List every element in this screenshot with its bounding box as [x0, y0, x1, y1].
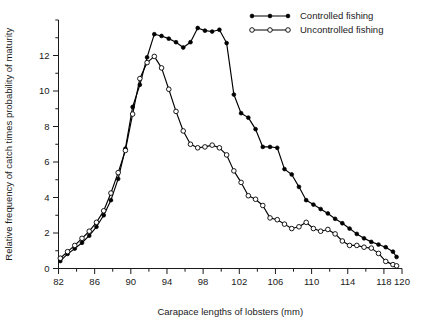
legend-label: Uncontrolled fishing — [300, 24, 383, 35]
data-point — [210, 30, 214, 34]
x-tick-label: 98 — [198, 276, 209, 287]
y-axis-ticks — [53, 20, 59, 269]
data-point — [196, 26, 200, 30]
data-point — [152, 32, 156, 36]
y-axis-title: Relative frequency of catch times probab… — [3, 28, 14, 261]
data-point — [145, 55, 149, 59]
data-point — [362, 245, 367, 250]
data-point — [254, 127, 258, 131]
data-point — [145, 60, 150, 65]
legend-label: Controlled fishing — [300, 10, 373, 21]
x-tick-label: 114 — [340, 276, 355, 287]
data-point — [195, 146, 200, 151]
data-point — [232, 93, 236, 97]
y-tick-label: 2 — [44, 227, 49, 238]
data-point — [340, 239, 345, 244]
x-axis-title: Carapace lengths of lobsters (mm) — [157, 306, 303, 317]
axes-group — [59, 20, 403, 269]
y-tick-label: 10 — [39, 85, 50, 96]
x-tick-label: 94 — [162, 276, 173, 287]
data-point — [355, 232, 359, 236]
data-point — [312, 203, 316, 207]
data-point — [101, 209, 106, 214]
data-point — [159, 66, 164, 71]
data-point — [268, 145, 272, 149]
data-point — [246, 116, 250, 120]
data-point — [58, 256, 63, 261]
series-line — [60, 28, 396, 261]
legend-entry: Controlled fishing — [250, 10, 373, 21]
chart-legend: Controlled fishingUncontrolled fishing — [250, 10, 384, 35]
data-point — [290, 173, 294, 177]
data-point — [167, 37, 171, 41]
series-controlled-fishing — [58, 26, 398, 263]
data-point — [348, 227, 352, 231]
data-point — [304, 220, 309, 225]
series-uncontrolled-fishing — [58, 54, 399, 268]
data-point — [203, 145, 208, 150]
data-point — [376, 251, 381, 256]
data-point — [174, 109, 179, 114]
data-point — [384, 245, 388, 249]
data-point — [138, 76, 143, 81]
data-point — [218, 28, 222, 32]
data-point — [383, 259, 388, 264]
data-point — [333, 232, 338, 237]
data-point — [340, 221, 344, 225]
data-point — [369, 240, 373, 244]
data-point — [239, 111, 243, 115]
data-point — [283, 167, 287, 171]
data-point — [304, 198, 308, 202]
data-point — [217, 146, 222, 151]
data-point — [362, 236, 366, 240]
data-point — [203, 29, 207, 33]
data-point — [394, 264, 399, 269]
x-axis-ticks — [59, 269, 403, 275]
chart-figure: 8286909498102106110114118120024681012Car… — [0, 0, 425, 321]
data-point — [246, 193, 251, 198]
data-point — [318, 229, 323, 234]
data-point — [377, 243, 381, 247]
data-point — [87, 234, 91, 238]
data-point — [188, 142, 193, 147]
data-point — [297, 185, 301, 189]
filled-circle-marker-icon — [286, 14, 290, 18]
open-circle-marker-icon — [268, 28, 273, 33]
data-point — [225, 41, 229, 45]
data-point — [224, 153, 229, 158]
open-circle-marker-icon — [286, 28, 291, 33]
data-point — [319, 207, 323, 211]
data-point — [80, 241, 84, 245]
legend-entry: Uncontrolled fishing — [250, 24, 384, 35]
data-point — [72, 243, 77, 248]
y-tick-label: 8 — [44, 121, 49, 132]
y-axis-ticklabels: 024681012 — [39, 50, 50, 274]
y-tick-label: 4 — [44, 192, 49, 203]
data-point — [181, 129, 186, 134]
data-point — [268, 216, 273, 221]
data-point — [94, 220, 99, 225]
data-point — [391, 250, 395, 254]
y-tick-label: 0 — [44, 263, 49, 274]
filled-circle-marker-icon — [250, 14, 254, 18]
data-point — [116, 170, 121, 175]
x-axis-ticklabels: 8286909498102106110114118120 — [53, 276, 410, 287]
data-point — [261, 145, 265, 149]
data-point — [160, 34, 164, 38]
data-point — [275, 146, 279, 150]
data-point — [152, 54, 157, 59]
data-point — [333, 217, 337, 221]
data-point — [95, 225, 99, 229]
data-point — [311, 226, 316, 231]
filled-circle-marker-icon — [268, 14, 272, 18]
data-point — [369, 246, 374, 251]
series-line — [60, 56, 396, 265]
data-point — [130, 112, 135, 117]
data-point — [282, 222, 287, 227]
data-point — [395, 255, 399, 259]
data-point — [326, 227, 331, 232]
data-point — [109, 198, 113, 202]
x-tick-label: 82 — [53, 276, 64, 287]
data-point — [123, 148, 128, 153]
x-tick-label: 106 — [268, 276, 284, 287]
